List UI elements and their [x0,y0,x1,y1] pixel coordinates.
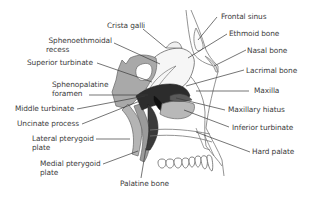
label-inferior-turbinate: Inferior turbinate [232,124,293,133]
label-lateral-pterygoid-plate: Lateral pterygoid plate [32,135,94,152]
hard-palate-lower [150,135,212,142]
sphenoid-sinus-opening [136,63,152,80]
label-text: Hard palate [252,147,294,156]
teeth-row [158,155,213,171]
label-text: Frontal sinus [221,12,266,21]
label-text: Nasal bone [247,46,287,55]
label-uncinate-process: Uncinate process [17,120,79,129]
label-hard-palate: Hard palate [252,148,294,157]
label-crista-galli: Crista galli [107,22,145,31]
label-text: Lacrimal bone [246,66,297,75]
label-ethmoid-bone: Ethmoid bone [229,30,279,39]
crista-galli-shape [166,42,182,48]
label-maxilla: Maxilla [254,87,279,96]
label-text-line2: plate [40,169,101,178]
label-text-line2: recess [46,46,112,55]
label-sphenopalatine-foramen: Sphenopalatine foramen [52,81,108,98]
maxilla-outline [186,72,222,166]
label-text: Ethmoid bone [229,29,279,38]
label-medial-pterygoid-plate: Medial pterygoid plate [40,160,101,177]
label-text: Crista galli [107,21,145,30]
label-text: Inferior turbinate [232,123,293,132]
label-text-line2: foramen [52,90,108,99]
hard-palate-upper [150,129,210,134]
label-maxillary-hiatus: Maxillary hiatus [228,106,285,115]
label-frontal-sinus: Frontal sinus [221,13,266,22]
label-text: Middle turbinate [15,104,74,113]
label-text: Maxilla [254,86,279,95]
label-palatine-bone: Palatine bone [120,180,169,189]
label-sphenoethmoidal-recess: Sphenoethmoidal recess [46,37,112,54]
label-lacrimal-bone: Lacrimal bone [246,67,297,76]
label-text: Maxillary hiatus [228,105,285,114]
label-superior-turbinate: Superior turbinate [27,59,93,68]
label-text: Superior turbinate [27,58,93,67]
inferior-turbinate-shape [160,101,195,119]
label-text: Uncinate process [17,119,79,128]
label-text-line2: plate [32,144,94,153]
nasal-cavity-diagram: Crista galli Sphenoethmoidal recess Supe… [0,0,310,197]
label-nasal-bone: Nasal bone [247,47,287,56]
label-middle-turbinate: Middle turbinate [15,105,74,114]
label-text: Palatine bone [120,179,169,188]
